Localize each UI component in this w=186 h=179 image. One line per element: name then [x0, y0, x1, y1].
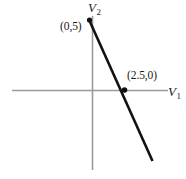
point-marker-x-intercept [122, 87, 128, 93]
x-axis-label: V1 [168, 85, 181, 101]
x-intercept-label: (2.5,0) [127, 70, 157, 82]
point-marker-y-intercept [87, 17, 92, 22]
y-axis-label: V2 [88, 1, 101, 17]
plot-canvas [0, 0, 186, 179]
y-axis-label-subscript: 2 [96, 7, 101, 17]
x-axis-label-subscript: 1 [176, 91, 181, 101]
x-axis-label-text: V [168, 84, 176, 99]
y-intercept-label: (0,5) [60, 21, 82, 33]
graph-figure: V2 V1 (0,5) (2.5,0) [0, 0, 186, 179]
y-axis-label-text: V [88, 0, 96, 15]
